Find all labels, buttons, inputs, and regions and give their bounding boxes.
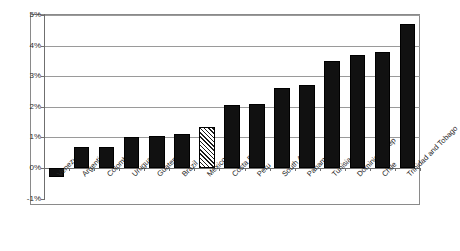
y-axis-tick-mark <box>41 137 45 138</box>
y-axis-tick-label: 3% <box>29 71 41 80</box>
bar-trinidad-and-tobago <box>400 24 416 168</box>
bar-dominican-rep <box>350 55 366 168</box>
y-axis-tick-label: -1% <box>27 194 41 203</box>
y-axis-tick-label: 2% <box>29 102 41 111</box>
y-axis-tick-mark <box>41 46 45 47</box>
y-axis-tick-label: 0% <box>29 163 41 172</box>
bar-mexico <box>199 127 215 168</box>
y-axis-tick-label: 4% <box>29 41 41 50</box>
y-axis-tick-mark <box>41 15 45 16</box>
gridline <box>44 15 420 16</box>
y-axis-tick-mark <box>41 76 45 77</box>
bar-tunisia <box>324 61 340 168</box>
y-axis-tick-label: 1% <box>29 132 41 141</box>
gridline <box>44 46 420 47</box>
bar-costa-rica <box>224 105 240 168</box>
bar-chile <box>375 52 391 168</box>
y-axis-tick-mark <box>41 199 45 200</box>
y-axis-tick-mark <box>41 107 45 108</box>
bar-south-africa <box>274 88 290 168</box>
bar-panama <box>299 85 315 168</box>
y-axis-tick-label: 5% <box>29 10 41 19</box>
y-axis-labels: 5%4%3%2%1%0%-1% <box>2 0 41 251</box>
bar-peru <box>249 104 265 168</box>
y-axis-tick-mark <box>41 168 45 169</box>
